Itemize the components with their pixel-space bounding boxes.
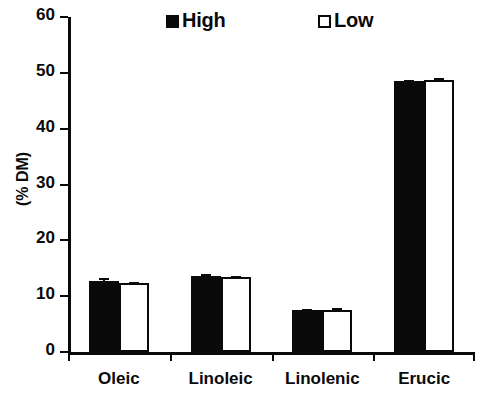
x-category-label: Erucic [398, 369, 450, 389]
y-tick-label: 50 [36, 61, 55, 81]
x-category-label: Linolenic [285, 369, 360, 389]
bar-chart-figure: High Low (% DM) 0102030405060 OleicLinol… [0, 0, 485, 396]
y-tick: 0 [60, 351, 68, 353]
error-bar-cap [231, 276, 241, 278]
x-tick [170, 352, 172, 361]
y-tick: 30 [60, 184, 68, 186]
error-bar-cap [201, 274, 211, 276]
x-tick [373, 352, 375, 361]
y-tick: 40 [60, 128, 68, 130]
bar-high-oleic [89, 281, 119, 352]
bar-low-linolenic [322, 310, 352, 352]
y-tick-label: 30 [36, 173, 55, 193]
error-bar-cap [99, 278, 109, 280]
error-bar-cap [434, 78, 444, 80]
y-tick-label: 20 [36, 228, 55, 248]
y-tick-label: 0 [46, 340, 55, 360]
y-tick: 10 [60, 295, 68, 297]
x-category-label: Oleic [98, 369, 140, 389]
error-bar-cap [404, 80, 414, 82]
bar-high-erucic [394, 81, 424, 352]
x-tick [473, 352, 475, 361]
y-axis-line [68, 17, 71, 353]
bar-low-oleic [119, 283, 149, 352]
y-tick-label: 60 [36, 5, 55, 25]
y-tick: 60 [60, 16, 68, 18]
error-bar-cap [129, 282, 139, 284]
x-category-label: Linoleic [189, 369, 253, 389]
y-tick-label: 40 [36, 117, 55, 137]
bar-low-linoleic [221, 277, 251, 352]
x-tick [272, 352, 274, 361]
y-tick-label: 10 [36, 284, 55, 304]
x-tick [68, 352, 70, 361]
bar-high-linolenic [292, 310, 322, 352]
bar-low-erucic [424, 80, 454, 352]
plot-area: 0102030405060 OleicLinoleicLinolenicEruc… [68, 17, 475, 352]
bar-high-linoleic [191, 276, 221, 352]
y-axis-title: (% DM) [14, 134, 32, 224]
y-tick: 50 [60, 72, 68, 74]
y-tick: 20 [60, 239, 68, 241]
error-bar-cap [332, 308, 342, 310]
error-bar-cap [302, 309, 312, 311]
